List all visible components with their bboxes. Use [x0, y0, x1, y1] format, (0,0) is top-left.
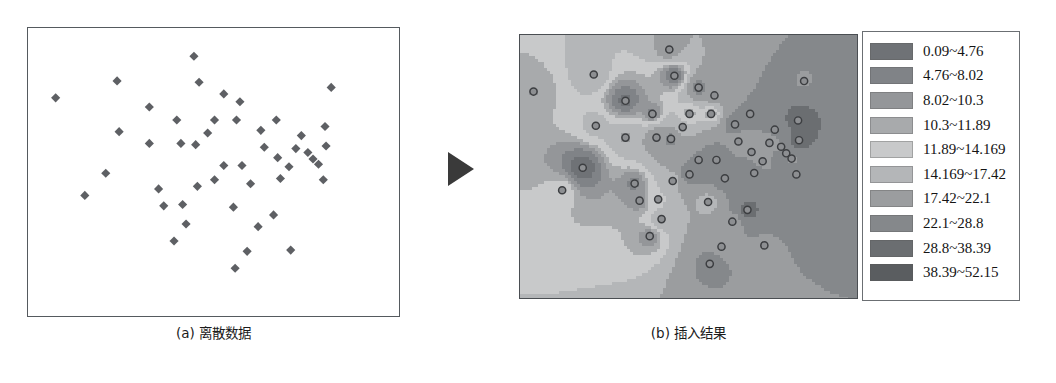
scatter-point — [80, 191, 89, 200]
legend-range-label: 8.02~10.3 — [923, 93, 984, 108]
raster-sample-point — [631, 180, 638, 187]
legend-row: 11.89~14.169 — [863, 137, 1019, 162]
legend-range-label: 38.39~52.15 — [923, 265, 999, 280]
scatter-point — [176, 139, 185, 148]
raster-sample-point — [778, 143, 785, 150]
scatter-point — [237, 161, 246, 170]
raster-sample-point — [707, 110, 714, 117]
raster-sample-point — [793, 171, 800, 178]
scatter-point — [231, 264, 240, 273]
legend-color-swatch — [870, 190, 913, 207]
legend-color-swatch — [870, 141, 913, 158]
scatter-point — [303, 148, 312, 157]
scatter-point — [145, 102, 154, 111]
scatter-point — [260, 143, 269, 152]
raster-sample-point — [801, 77, 808, 84]
legend-range-label: 4.76~8.02 — [923, 68, 984, 83]
raster-sample-point — [695, 84, 702, 91]
raster-sample-point — [636, 197, 643, 204]
raster-sample-point — [671, 72, 678, 79]
raster-sample-point — [735, 138, 742, 145]
legend-range-label: 11.89~14.169 — [923, 142, 1006, 157]
scatter-point — [145, 139, 154, 148]
scatter-point — [321, 141, 330, 150]
legend-row: 10.3~11.89 — [863, 113, 1019, 138]
figure-container: (a) 离散数据 0.09~4.764.76~8.028.02~10.310.3… — [0, 0, 1056, 383]
raster-sample-point — [713, 156, 720, 163]
legend-row: 22.1~28.8 — [863, 211, 1019, 236]
legend-color-swatch — [870, 67, 913, 84]
scatter-point — [229, 203, 238, 212]
scatter-point — [320, 122, 329, 131]
scatter-point — [286, 245, 295, 254]
raster-sample-point — [795, 137, 802, 144]
raster-sample-point — [751, 169, 758, 176]
raster-sample-point — [771, 126, 778, 133]
legend-range-label: 10.3~11.89 — [923, 118, 991, 133]
scatter-point — [101, 169, 110, 178]
raster-sample-point — [646, 233, 653, 240]
scatter-point — [178, 200, 187, 209]
panel-b-caption: (b) 插入结果 — [519, 322, 858, 342]
legend-range-label: 22.1~28.8 — [923, 216, 984, 231]
scatter-point — [319, 175, 328, 184]
scatter-point — [191, 140, 200, 149]
raster-sample-point — [655, 196, 662, 203]
raster-sample-point — [622, 134, 629, 141]
scatter-point — [219, 89, 228, 98]
legend: 0.09~4.764.76~8.028.02~10.310.3~11.8911.… — [862, 31, 1020, 301]
scatter-point — [232, 115, 241, 124]
raster-sample-point — [658, 216, 665, 223]
scatter-point — [51, 93, 60, 102]
raster-sample-point — [729, 218, 736, 225]
legend-color-swatch — [870, 264, 913, 281]
legend-color-swatch — [870, 117, 913, 134]
scatter-plot — [28, 28, 399, 316]
scatter-point — [276, 174, 285, 183]
scatter-point — [327, 83, 336, 92]
scatter-point — [169, 236, 178, 245]
raster-sample-point — [705, 198, 712, 205]
scatter-point — [235, 97, 244, 106]
legend-color-swatch — [870, 92, 913, 109]
raster-sample-point — [731, 121, 738, 128]
legend-row: 17.42~22.1 — [863, 187, 1019, 212]
raster-sample-point — [788, 155, 795, 162]
scatter-point — [193, 182, 202, 191]
legend-color-swatch — [870, 215, 913, 232]
raster-sample-point — [667, 135, 674, 142]
scatter-point — [272, 115, 281, 124]
raster-sample-point — [653, 134, 660, 141]
scatter-point — [154, 184, 163, 193]
raster-sample-point — [759, 158, 766, 165]
scatter-point — [254, 222, 263, 231]
scatter-point — [195, 78, 204, 87]
scatter-point — [297, 131, 306, 140]
raster-sample-point — [706, 260, 713, 267]
interpolated-raster — [519, 34, 858, 299]
contour-surface — [520, 35, 857, 298]
legend-range-label: 0.09~4.76 — [923, 44, 984, 59]
raster-sample-point — [711, 92, 718, 99]
raster-sample-point — [592, 122, 599, 129]
scatter-point — [112, 76, 121, 85]
scatter-point — [203, 128, 212, 137]
scatter-point — [273, 153, 282, 162]
scatter-point — [189, 52, 198, 61]
raster-sample-point — [530, 88, 537, 95]
legend-color-swatch — [870, 240, 913, 257]
legend-range-label: 28.8~38.39 — [923, 241, 991, 256]
raster-sample-point — [679, 124, 686, 131]
legend-row: 28.8~38.39 — [863, 236, 1019, 261]
scatter-point — [172, 115, 181, 124]
scatter-point — [181, 219, 190, 228]
scatter-point — [210, 175, 219, 184]
raster-sample-point — [622, 97, 629, 104]
right-arrow-icon — [448, 152, 474, 186]
scatter-point — [210, 115, 219, 124]
raster-sample-point — [686, 171, 693, 178]
raster-sample-point — [718, 243, 725, 250]
raster-sample-point — [748, 148, 755, 155]
scatter-point — [284, 162, 293, 171]
raster-sample-point — [766, 139, 773, 146]
